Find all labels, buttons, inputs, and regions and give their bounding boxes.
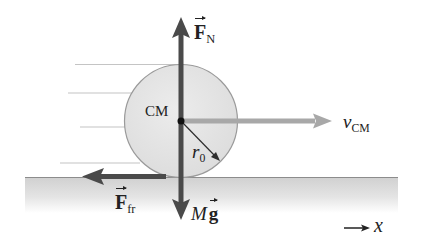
x-axis-arrow — [344, 225, 370, 232]
velocity-label: vCM — [343, 112, 370, 135]
center-of-mass-label: CM — [145, 104, 168, 119]
weight-label: Mg — [191, 204, 218, 223]
radius-label: r0 — [192, 142, 205, 165]
normal-force-label: FN — [194, 22, 215, 46]
x-axis-label: x — [374, 215, 383, 235]
center-of-mass-dot — [178, 118, 185, 125]
friction-force-label: Ffr — [115, 192, 135, 216]
